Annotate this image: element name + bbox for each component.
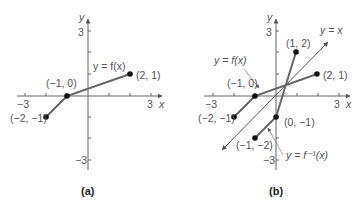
point [273, 114, 279, 120]
x-axis-label: x [158, 98, 165, 110]
point-label: (−1, −2) [236, 139, 273, 151]
y-max-tick-label: 3 [78, 26, 84, 38]
y-max-tick-label: 3 [266, 26, 272, 38]
point-label: (0, −1) [284, 116, 315, 128]
panel-a: y x 3 −3 −3 3 y = f(x) (2, 1) (−1, 0) (−… [10, 11, 165, 197]
point [293, 49, 299, 55]
curve-label-f-inverse: y = f⁻¹(x) [285, 149, 328, 161]
x-axis-label: x [345, 98, 352, 110]
x-max-tick-label: 3 [334, 98, 340, 110]
y-axis-label: y [78, 11, 85, 23]
y-min-tick-label: −3 [75, 154, 87, 166]
axes-a [17, 19, 162, 170]
figure: y x 3 −3 −3 3 y = f(x) (2, 1) (−1, 0) (−… [0, 0, 364, 208]
panel-b: y x 3 −3 −3 3 y = x y = f(x) y = f⁻¹(x) … [198, 11, 352, 197]
x-min-tick-label: −3 [17, 98, 29, 110]
y-min-tick-label: −3 [263, 154, 275, 166]
point-label: (2, 1) [136, 69, 161, 81]
point [314, 71, 320, 77]
point-label: (−1, 0) [227, 77, 258, 89]
point [64, 93, 70, 99]
point [127, 71, 133, 77]
point [252, 93, 258, 99]
x-min-tick-label: −3 [205, 98, 217, 110]
point-label: (−2, −1) [10, 112, 47, 124]
x-max-tick-label: 3 [147, 98, 153, 110]
curve-label-f: y = f(x) [213, 54, 246, 66]
identity-label: y = x [319, 24, 343, 36]
panel-caption-b: (b) [269, 185, 283, 197]
curve-label-f: y = f(x) [93, 60, 125, 72]
point-label: (1, 2) [286, 37, 311, 49]
point-label: (−1, 0) [46, 77, 77, 89]
panel-caption-a: (a) [81, 185, 95, 197]
point-label: (−2, −1) [198, 112, 235, 124]
y-axis-label: y [266, 11, 273, 23]
point-label: (2, 1) [323, 69, 348, 81]
